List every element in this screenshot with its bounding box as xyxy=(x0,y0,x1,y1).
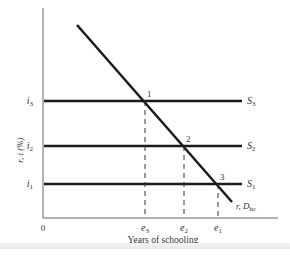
schooling-label-e2: e2 xyxy=(180,222,188,235)
point-label-3: 3 xyxy=(220,172,225,182)
rate-label-i3: i3 xyxy=(27,95,34,108)
demand-label: r, Dhc xyxy=(236,201,256,213)
rate-label-i2: i2 xyxy=(27,140,34,153)
y-axis-label: r, i (%) xyxy=(15,137,25,162)
schooling-label-e1: e1 xyxy=(214,222,222,235)
demand-line xyxy=(77,25,232,202)
point-label-2: 2 xyxy=(186,134,191,144)
schooling-diagram: r, i (%) i3 i2 i1 S3 S2 S1 1 2 3 r, Dhc … xyxy=(0,0,290,256)
origin-label: 0 xyxy=(41,223,46,233)
supply-label-s2: S2 xyxy=(247,140,256,153)
point-label-1: 1 xyxy=(147,89,152,99)
rate-label-i1: i1 xyxy=(27,178,34,191)
supply-label-s1: S1 xyxy=(247,178,256,191)
page-edge-band xyxy=(0,243,290,249)
schooling-label-e3: e3 xyxy=(141,222,149,235)
supply-label-s3: S3 xyxy=(247,95,256,108)
